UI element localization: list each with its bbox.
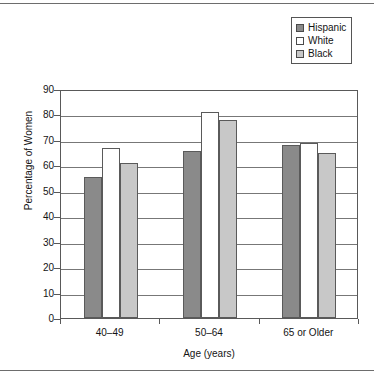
x-axis-category-label: 50–64 <box>159 327 258 339</box>
legend-swatch-icon <box>296 50 304 58</box>
bar-hispanic-0[interactable] <box>84 177 102 318</box>
x-axis-tick-mark <box>159 319 160 324</box>
x-axis-tick-mark <box>259 319 260 324</box>
legend-swatch-icon <box>296 37 304 45</box>
y-axis-tick-label: 40 <box>10 212 54 222</box>
y-axis-tick-label: 80 <box>10 110 54 120</box>
legend-item-label: Hispanic <box>308 21 346 34</box>
bar-hispanic-1[interactable] <box>183 151 201 318</box>
bar-black-2[interactable] <box>318 153 336 318</box>
y-axis-tick-label: 70 <box>10 136 54 146</box>
y-axis-tick-label: 60 <box>10 161 54 171</box>
legend-item-hispanic[interactable]: Hispanic <box>296 21 346 34</box>
bar-white-0[interactable] <box>102 148 120 318</box>
bar-black-1[interactable] <box>219 120 237 318</box>
y-axis-tick-label: 20 <box>10 263 54 273</box>
legend-item-label: White <box>308 34 334 47</box>
x-axis-title: Age (years) <box>60 348 358 359</box>
chart-legend: HispanicWhiteBlack <box>291 17 352 64</box>
bar-white-2[interactable] <box>300 143 318 318</box>
bar-chart-figure: HispanicWhiteBlack Percentage of Women 9… <box>0 0 374 381</box>
legend-item-black[interactable]: Black <box>296 47 346 60</box>
y-axis-tick-label: 10 <box>10 289 54 299</box>
x-axis-category-label: 40–49 <box>60 327 159 339</box>
y-axis-tick-label: 0 <box>10 314 54 324</box>
legend-item-white[interactable]: White <box>296 34 346 47</box>
bar-white-1[interactable] <box>201 112 219 318</box>
x-axis-category-label: 65 or Older <box>259 327 358 339</box>
y-axis-tick-label: 50 <box>10 187 54 197</box>
legend-item-label: Black <box>308 47 332 60</box>
bar-hispanic-2[interactable] <box>282 145 300 318</box>
legend-swatch-icon <box>296 24 304 32</box>
plot-area <box>60 90 358 319</box>
x-axis-tick-mark <box>358 319 359 324</box>
x-axis-tick-mark <box>60 319 61 324</box>
bottom-divider-rule <box>0 370 374 371</box>
y-axis-tick-label: 30 <box>10 238 54 248</box>
y-axis-tick-label: 90 <box>10 85 54 95</box>
top-divider-rule <box>0 3 374 4</box>
bar-black-0[interactable] <box>120 163 138 318</box>
